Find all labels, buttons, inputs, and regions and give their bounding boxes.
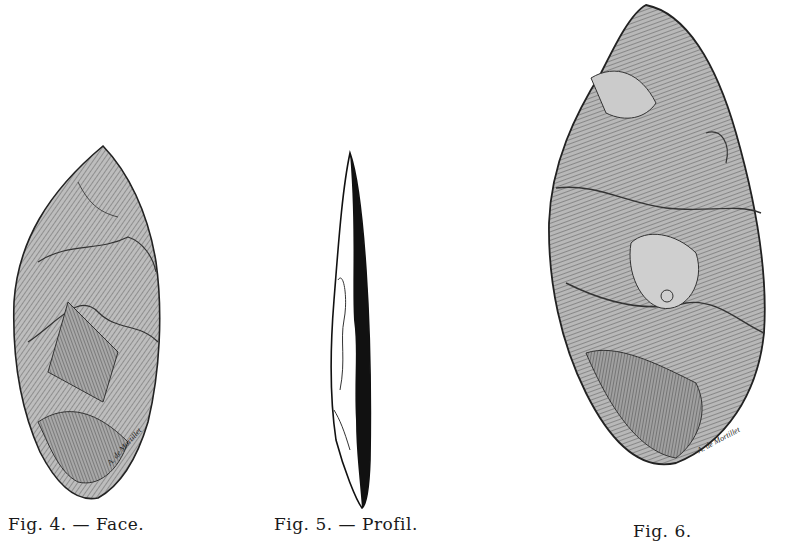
figure-4-caption: Fig. 4. — Face. xyxy=(8,514,144,534)
figure-6-illustration xyxy=(546,3,771,468)
flint-biface-drawing xyxy=(546,3,771,468)
flint-profile-drawing xyxy=(326,150,376,512)
figure-5-caption: Fig. 5. — Profil. xyxy=(274,514,418,534)
figure-4-illustration xyxy=(8,142,173,504)
figure-5-illustration xyxy=(326,150,376,512)
figure-6-caption: Fig. 6. xyxy=(633,521,692,541)
flint-face-drawing xyxy=(8,142,173,504)
